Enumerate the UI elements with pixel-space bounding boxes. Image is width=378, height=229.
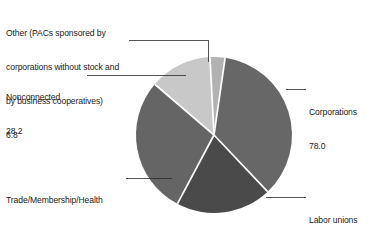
pie-chart-figure: Other (PACs sponsored by corporations wi… [0, 0, 378, 229]
pie-label-labor-unions: Labor unions 43.4 [309, 192, 358, 229]
pie-value-nonconnected: 28.2 [6, 126, 60, 137]
leader-line-other [129, 41, 209, 63]
pie-label-nonconnected: Nonconnected 28.2 [6, 69, 60, 160]
pie-label-trade-membership-health: Trade/Membership/Health 62.3 [6, 172, 103, 229]
pie-value-corporations: 78.0 [309, 141, 357, 152]
pie-label-corporations-line1: Corporations [309, 107, 357, 118]
pie-label-labor-line1: Labor unions [309, 215, 358, 226]
pie-label-nonconnected-line1: Nonconnected [6, 92, 60, 103]
pie-label-corporations: Corporations 78.0 [309, 84, 357, 175]
pie-label-other-line1: Other (PACs sponsored by [6, 28, 119, 39]
pie-label-trade-line1: Trade/Membership/Health [6, 195, 103, 206]
